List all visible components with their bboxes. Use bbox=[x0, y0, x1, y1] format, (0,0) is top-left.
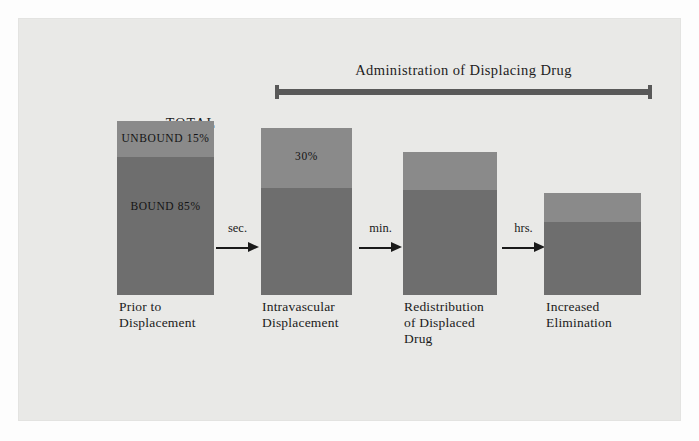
caption-prior-to-displacement: Prior to Displacement bbox=[119, 299, 237, 331]
bar-prior-to-displacement: UNBOUND 15% BOUND 85% bbox=[117, 121, 214, 295]
bar1-bound-label: BOUND 85% bbox=[117, 200, 214, 212]
bar-increased-elimination bbox=[544, 193, 641, 295]
arrow-hrs-label: hrs. bbox=[502, 221, 545, 236]
diagram-panel: Administration of Displacing Drug TOTAL … bbox=[18, 18, 681, 421]
bar4-bound-segment bbox=[544, 222, 641, 295]
bar2-bound-segment bbox=[261, 188, 352, 295]
administration-label: Administration of Displacing Drug bbox=[275, 62, 652, 79]
bar-redistribution bbox=[403, 152, 497, 295]
figure-canvas: Administration of Displacing Drug TOTAL … bbox=[0, 0, 699, 441]
arrow-sec-head bbox=[248, 242, 259, 252]
bar1-unbound-label: UNBOUND 15% bbox=[117, 132, 214, 144]
bar3-bound-segment bbox=[403, 190, 497, 295]
administration-duration-bar bbox=[275, 85, 652, 99]
duration-bar-right-cap bbox=[648, 85, 652, 99]
duration-bar-line bbox=[275, 89, 652, 95]
arrow-hrs: hrs. bbox=[502, 238, 545, 258]
bar-intravascular-displacement: 30% bbox=[261, 128, 352, 295]
arrow-min-head bbox=[391, 242, 402, 252]
arrow-min-shaft bbox=[359, 247, 392, 249]
bar1-unbound-segment: UNBOUND 15% bbox=[117, 121, 214, 157]
arrow-min-label: min. bbox=[359, 221, 402, 236]
arrow-min: min. bbox=[359, 238, 402, 258]
caption-redistribution: Redistribution of Displaced Drug bbox=[404, 299, 532, 347]
caption-increased-elimination: Increased Elimination bbox=[546, 299, 666, 331]
caption-intravascular-displacement: Intravascular Displacement bbox=[262, 299, 390, 331]
bar3-unbound-segment bbox=[403, 152, 497, 190]
arrow-sec-shaft bbox=[216, 247, 249, 249]
arrow-sec-label: sec. bbox=[216, 221, 259, 236]
bar4-unbound-segment bbox=[544, 193, 641, 222]
arrow-hrs-shaft bbox=[502, 247, 535, 249]
bar2-unbound-segment: 30% bbox=[261, 128, 352, 188]
bar1-bound-segment: BOUND 85% bbox=[117, 157, 214, 295]
bar2-unbound-label: 30% bbox=[261, 150, 352, 162]
arrow-sec: sec. bbox=[216, 238, 259, 258]
